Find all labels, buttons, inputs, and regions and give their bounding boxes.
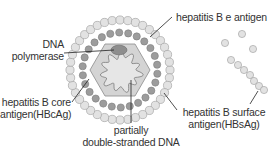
free-surface-antigen-bead bbox=[238, 30, 245, 37]
label-e-antigen: hepatitis B e antigen bbox=[176, 11, 267, 23]
label-dna-polymerase: DNA polymerase bbox=[6, 38, 64, 62]
free-surface-antigen-bead bbox=[240, 66, 247, 73]
e-antigen-bead bbox=[148, 87, 155, 94]
e-antigen-bead bbox=[125, 30, 132, 37]
e-antigen-bead bbox=[142, 94, 149, 101]
leader-e-antigen bbox=[150, 17, 172, 37]
e-antigen-bead bbox=[91, 39, 98, 46]
e-antigen-bead bbox=[126, 103, 133, 110]
surface-antigen-bead bbox=[163, 50, 171, 58]
e-antigen-bead bbox=[154, 61, 161, 68]
surface-antigen-bead bbox=[100, 18, 108, 26]
e-antigen-bead bbox=[154, 70, 161, 77]
surface-antigen-bead bbox=[108, 17, 116, 25]
surface-antigen-bead bbox=[116, 116, 124, 124]
e-antigen-bead bbox=[79, 63, 86, 70]
hbv-diagram: hepatitis B e antigen DNA polymerase hep… bbox=[0, 0, 272, 152]
e-antigen-bead bbox=[98, 34, 105, 41]
e-antigen-bead bbox=[152, 79, 159, 86]
e-antigen-bead bbox=[151, 52, 158, 59]
e-antigen-bead bbox=[141, 38, 148, 45]
e-antigen-bead bbox=[81, 54, 88, 61]
leader-surface-antigen-free bbox=[250, 91, 258, 104]
free-surface-antigen-bead bbox=[227, 56, 234, 63]
e-antigen-bead bbox=[135, 99, 142, 106]
free-surface-antigen-particles bbox=[221, 30, 267, 93]
label-surface-antigen: hepatitis B surface antigen(HBsAg) bbox=[178, 106, 270, 130]
surface-antigen-bead bbox=[165, 74, 173, 82]
surface-antigen-bead bbox=[124, 17, 132, 25]
free-surface-antigen-bead bbox=[221, 39, 228, 46]
label-core-antigen: hepatitis B core antigen(HBcAg) bbox=[0, 96, 71, 120]
e-antigen-bead bbox=[133, 33, 140, 40]
e-antigen-bead bbox=[107, 30, 114, 37]
free-surface-antigen-bead bbox=[260, 86, 267, 93]
e-antigen-bead bbox=[117, 104, 124, 111]
surface-antigen-bead bbox=[131, 113, 139, 121]
surface-antigen-bead bbox=[67, 74, 75, 82]
surface-antigen-bead bbox=[67, 58, 75, 66]
surface-antigen-bead bbox=[116, 16, 124, 24]
surface-antigen-bead bbox=[66, 66, 74, 74]
leader-surface-antigen-envelope bbox=[164, 93, 177, 110]
e-antigen-bead bbox=[108, 103, 115, 110]
free-surface-antigen-bead bbox=[249, 45, 256, 52]
surface-antigen-bead bbox=[68, 81, 76, 89]
surface-antigen-bead bbox=[165, 58, 173, 66]
e-antigen-bead bbox=[92, 95, 99, 102]
surface-antigen-bead bbox=[108, 115, 116, 123]
surface-antigen-bead bbox=[166, 66, 174, 74]
label-double-stranded-dna: partially double-stranded DNA bbox=[80, 124, 182, 148]
e-antigen-bead bbox=[116, 29, 123, 36]
free-surface-antigen-bead bbox=[234, 61, 241, 68]
e-antigen-bead bbox=[86, 88, 93, 95]
e-antigen-bead bbox=[79, 72, 86, 79]
e-antigen-bead bbox=[100, 100, 107, 107]
e-antigen-bead bbox=[147, 44, 154, 51]
